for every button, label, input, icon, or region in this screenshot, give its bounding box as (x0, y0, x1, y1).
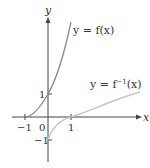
curve-f-inverse (48, 92, 140, 140)
x-axis-arrow (136, 115, 142, 120)
tick-label-x-minus1: −1 (17, 122, 32, 133)
tick-label-x-1: 1 (68, 122, 74, 133)
tick-label-origin: 0 (39, 122, 45, 133)
tick-label-y-1: 1 (39, 89, 45, 100)
x-axis-label: x (143, 111, 150, 124)
inverse-function-graph: x y −1 0 1 1 −1 y = f(x) y = f−1(x) (0, 0, 150, 168)
y-axis-arrow (46, 17, 51, 23)
y-axis-label: y (44, 4, 52, 17)
label-f-inverse: y = f−1(x) (89, 78, 142, 91)
tick-label-y-minus1: −1 (34, 135, 49, 146)
label-f: y = f(x) (72, 24, 114, 37)
